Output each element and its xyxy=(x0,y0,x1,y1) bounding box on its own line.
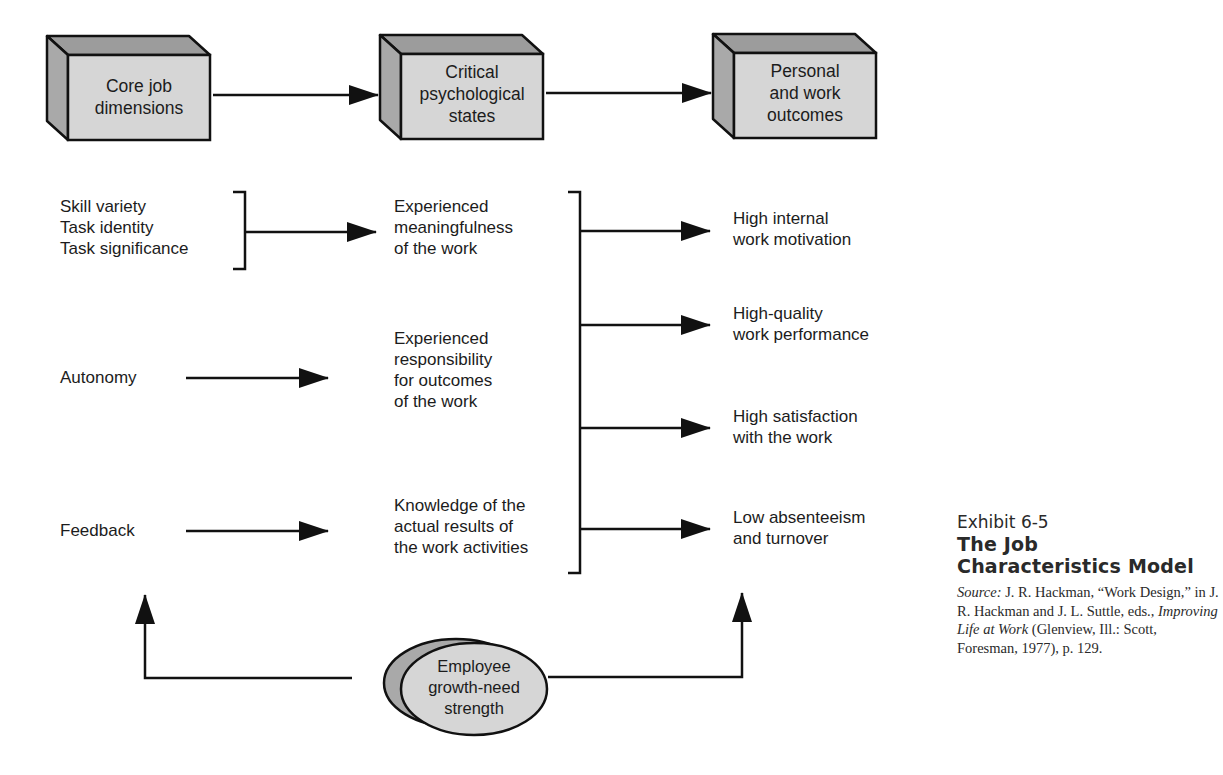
bracket-psych-states xyxy=(568,192,580,573)
label-skill-task-group: Skill variety Task identity Task signifi… xyxy=(60,196,189,259)
exhibit-source: Source: J. R. Hackman, “Work Design,” in… xyxy=(957,583,1219,657)
box-label-critical-states: Critical psychological states xyxy=(401,61,543,127)
exhibit-caption: Exhibit 6-5 The Job Characteristics Mode… xyxy=(957,512,1219,657)
outcome-performance: High-quality work performance xyxy=(733,303,869,345)
exhibit-title-line1: The Job xyxy=(957,533,1219,555)
arrow-moderator-right xyxy=(548,593,742,677)
exhibit-number: Exhibit 6-5 xyxy=(957,512,1219,533)
bracket-core-group xyxy=(233,192,245,269)
label-growth-need-strength: Employee growth-need strength xyxy=(404,656,544,719)
arrow-moderator-left xyxy=(145,595,352,678)
label-meaningfulness: Experienced meaningfulness of the work xyxy=(394,196,513,259)
label-knowledge: Knowledge of the actual results of the w… xyxy=(394,495,528,558)
label-responsibility: Experienced responsibility for outcomes … xyxy=(394,328,492,412)
exhibit-title-line2: Characteristics Model xyxy=(957,555,1219,577)
source-prefix: Source: xyxy=(957,584,1002,600)
box-label-outcomes: Personal and work outcomes xyxy=(734,60,876,126)
box-label-core-job-dimensions: Core job dimensions xyxy=(68,75,210,119)
outcome-satisfaction: High satisfaction with the work xyxy=(733,406,858,448)
label-autonomy: Autonomy xyxy=(60,367,137,388)
outcome-absenteeism: Low absenteeism and turnover xyxy=(733,507,865,549)
outcome-motivation: High internal work motivation xyxy=(733,208,851,250)
label-feedback: Feedback xyxy=(60,520,135,541)
